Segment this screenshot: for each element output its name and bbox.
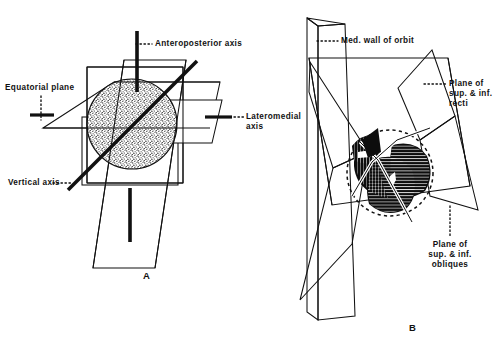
label-plane-recti-line2: sup. & inf. — [449, 89, 492, 99]
panel-a-diagram — [30, 31, 244, 268]
med-wall-of-orbit-shape — [307, 18, 355, 320]
label-med-wall-of-orbit: Med. wall of orbit — [341, 36, 414, 46]
panel-a-letter: A — [143, 270, 150, 281]
label-plane-obliques-line3: obliques — [405, 260, 495, 270]
anatomy-figure — [0, 0, 500, 338]
panel-b-letter: B — [409, 322, 416, 333]
label-equatorial-plane: Equatorial plane — [5, 83, 74, 93]
label-plane-recti-line3: recti — [449, 99, 468, 109]
label-plane-obliques-line2: sup. & inf. — [405, 250, 495, 260]
label-lateromedial-axis-line1: Lateromedial — [246, 112, 301, 122]
label-anteroposterior-axis: Anteroposterior axis — [155, 39, 242, 49]
label-plane-obliques-line1: Plane of — [405, 240, 495, 250]
label-lateromedial-axis-line2: axis — [246, 122, 263, 132]
label-vertical-axis: Vertical axis — [8, 178, 60, 188]
label-plane-recti-line1: Plane of — [449, 79, 484, 89]
panel-b-diagram — [300, 18, 478, 320]
